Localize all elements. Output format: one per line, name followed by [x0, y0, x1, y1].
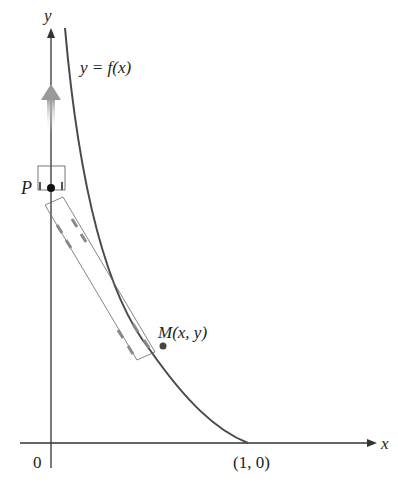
y-axis-arrow-icon — [47, 28, 55, 38]
diagram-canvas — [0, 0, 398, 486]
origin-label: 0 — [33, 453, 42, 473]
wheel-marks — [57, 219, 149, 354]
point-m — [160, 343, 167, 350]
point-p — [47, 184, 55, 192]
point-m-label: M(x, y) — [158, 323, 207, 343]
motion-arrow-icon — [41, 84, 61, 132]
x-axis-label: x — [381, 434, 389, 454]
x-axis — [20, 439, 377, 447]
curve — [65, 28, 248, 443]
intercept-label: (1, 0) — [233, 453, 270, 473]
y-axis-label: y — [44, 6, 52, 26]
x-axis-arrow-icon — [367, 439, 377, 447]
point-p-label: P — [21, 178, 32, 199]
curve-label: y = f(x) — [80, 58, 131, 78]
